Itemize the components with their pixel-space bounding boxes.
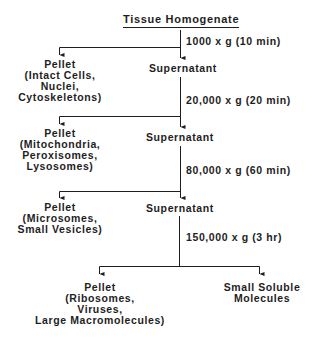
supernatant-node-2: Supernatant bbox=[146, 132, 214, 143]
centrifuge-condition-1: 1000 x g (10 min) bbox=[186, 36, 281, 47]
pellet-node-4: Pellet (Ribosomes, Viruses, Large Macrom… bbox=[35, 282, 165, 326]
centrifuge-condition-2: 20,000 x g (20 min) bbox=[186, 95, 291, 106]
start-node-tissue-homogenate: Tissue Homogenate bbox=[123, 14, 239, 28]
small-soluble-molecules-node: Small Soluble Molecules bbox=[224, 282, 301, 304]
centrifuge-condition-4: 150,000 x g (3 hr) bbox=[186, 232, 282, 243]
supernatant-node-3: Supernatant bbox=[146, 203, 214, 214]
centrifuge-condition-3: 80,000 x g (60 min) bbox=[186, 165, 291, 176]
pellet-node-1: Pellet (Intact Cells, Nuclei, Cytoskelet… bbox=[18, 59, 102, 103]
pellet-node-2: Pellet (Mitochondria, Peroxisomes, Lysos… bbox=[20, 128, 101, 172]
pellet-node-3: Pellet (Microsomes, Small Vesicles) bbox=[18, 202, 103, 235]
supernatant-node-1: Supernatant bbox=[149, 63, 217, 74]
